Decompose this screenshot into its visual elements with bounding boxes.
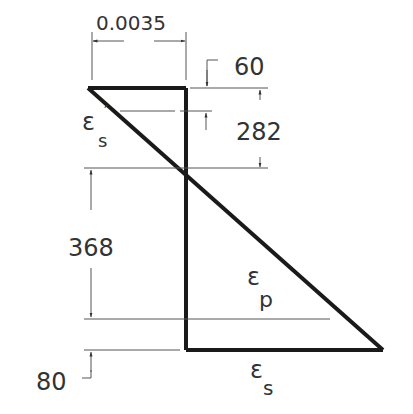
svg-text:′: ′	[104, 101, 108, 122]
top-strain-value: 0.0035	[96, 11, 166, 35]
svg-text:s: s	[263, 376, 273, 400]
svg-text:p: p	[259, 287, 273, 312]
svg-text:s: s	[98, 130, 107, 151]
label-eps-s: ε s	[250, 356, 273, 400]
lower-depth-value: 368	[68, 234, 114, 262]
strain-diagram: 0.0035 60 282 368 80 ε s ′ ε p ε s	[0, 0, 413, 414]
dimension-lines	[82, 32, 330, 378]
upper-depth-value: 282	[236, 118, 282, 146]
label-eps-s-prime: ε s ′	[82, 101, 108, 151]
bottom-offset-value: 80	[36, 368, 67, 396]
label-eps-p: ε p	[247, 263, 273, 312]
svg-text:ε: ε	[82, 108, 95, 136]
top-offset-value: 60	[234, 53, 265, 81]
svg-text:ε: ε	[250, 356, 263, 384]
